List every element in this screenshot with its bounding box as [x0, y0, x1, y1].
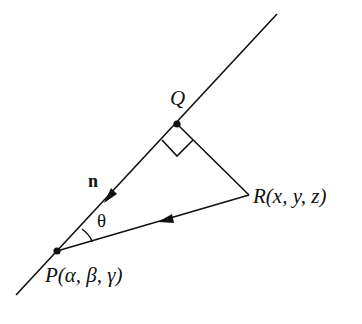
- theta-arc: [82, 229, 92, 242]
- point-q-dot: [173, 120, 180, 127]
- arrowhead-n-icon: [104, 188, 117, 203]
- segment-q-r: [177, 124, 249, 195]
- label-n: n: [88, 172, 98, 190]
- label-r: R(x, y, z): [253, 186, 326, 207]
- point-p-dot: [53, 247, 60, 254]
- diagram-canvas: Q n θ R(x, y, z) P(α, β, γ): [0, 0, 362, 324]
- label-theta: θ: [97, 211, 106, 230]
- label-q: Q: [170, 88, 185, 109]
- arrowhead-rp-icon: [158, 214, 174, 223]
- right-angle-marker: [162, 140, 193, 156]
- label-p: P(α, β, γ): [45, 265, 123, 286]
- segment-r-p: [57, 195, 249, 251]
